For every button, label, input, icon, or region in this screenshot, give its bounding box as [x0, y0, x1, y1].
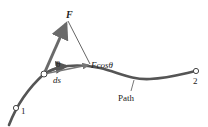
diagram-svg: F θ Fcosθ ds 1 2 Path: [0, 0, 208, 127]
force-label: F: [65, 9, 73, 20]
work-path-diagram: F θ Fcosθ ds 1 2 Path: [0, 0, 208, 127]
point-1-marker: [13, 105, 18, 110]
point-2-marker: [193, 68, 198, 73]
point-2-label: 2: [193, 76, 198, 86]
component-label: Fcosθ: [90, 60, 113, 70]
base-point-marker: [41, 71, 47, 77]
displacement-label: ds: [53, 75, 62, 85]
path-curve: [9, 66, 196, 125]
projection-line: [68, 21, 90, 64]
point-1-label: 1: [21, 106, 26, 116]
path-label: Path: [118, 93, 135, 103]
path-leader-line: [131, 80, 134, 91]
angle-label: θ: [56, 59, 60, 69]
